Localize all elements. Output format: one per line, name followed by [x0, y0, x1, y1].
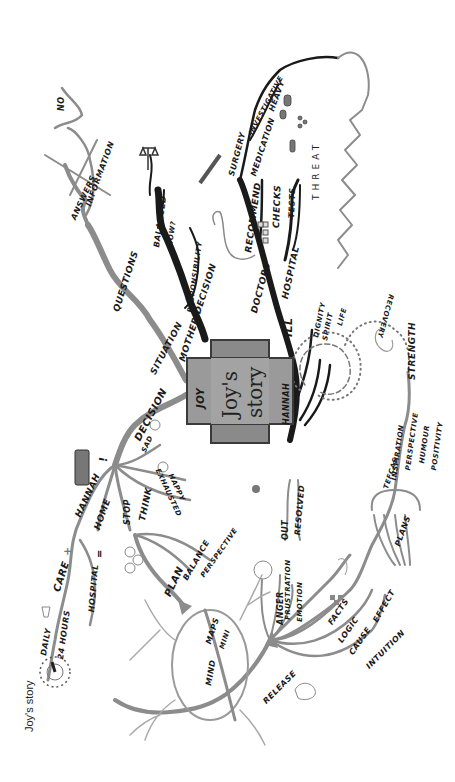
label-ill: ILL [283, 317, 294, 337]
label-no: NO [58, 97, 66, 112]
label-strength: STRENGTH [408, 322, 417, 380]
clock-icon [40, 657, 70, 687]
label-plus: + [62, 546, 73, 556]
figure-caption: Joy's story [23, 680, 35, 732]
label-equals: = [95, 549, 105, 558]
trophy-icon [42, 607, 50, 617]
ambulance-icon [75, 450, 89, 485]
monster-icon [295, 683, 315, 699]
label-frustration: FRUSTRATION [285, 560, 292, 621]
central-title-line1: Joy's [220, 371, 240, 418]
mind-map: Joy's story JOY HANNAH SITUATION QUESTIO… [0, 0, 455, 782]
label-exclaim: ! [98, 456, 109, 462]
label-tests: TESTS [288, 188, 297, 219]
label-stop: STOP [124, 499, 132, 525]
central-left-label: JOY [196, 388, 206, 408]
label-emotion: EMOTION [297, 582, 304, 622]
angry-face-icon [254, 561, 272, 579]
central-right-label: HANNAH [283, 383, 291, 425]
syringe-icon [200, 155, 220, 183]
label-threat: THREAT [312, 141, 321, 200]
central-title-line2: story [245, 367, 265, 418]
paint-splash-icon [252, 485, 260, 493]
label-out: OUT [282, 520, 290, 540]
pills-icon [280, 95, 307, 152]
label-checks: CHECKS [272, 185, 283, 229]
scales-icon [140, 148, 158, 170]
